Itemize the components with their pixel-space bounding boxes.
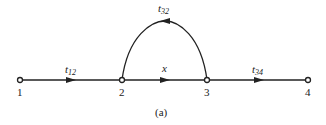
edge-label-x: x [161,62,167,74]
node-label-1: 1 [17,86,23,98]
arrow-1-2-icon [66,77,76,83]
node-label-4: 4 [305,86,311,98]
edge-label-t12: t12 [65,63,76,77]
node-4 [306,78,311,83]
arrow-2-3-icon [160,77,170,83]
figure-caption: (a) [155,106,168,119]
node-2 [120,78,125,83]
arrow-3-2-icon [160,18,170,24]
node-label-2: 2 [119,86,125,98]
signal-flow-graph: 1 2 3 4 t12 x t32 t34 (a) [0,0,326,125]
node-1 [18,78,23,83]
node-label-3: 3 [204,86,210,98]
edge-label-t34: t34 [252,63,263,77]
edge-label-t32: t32 [158,2,169,16]
node-3 [205,78,210,83]
arrow-3-4-icon [254,77,264,83]
